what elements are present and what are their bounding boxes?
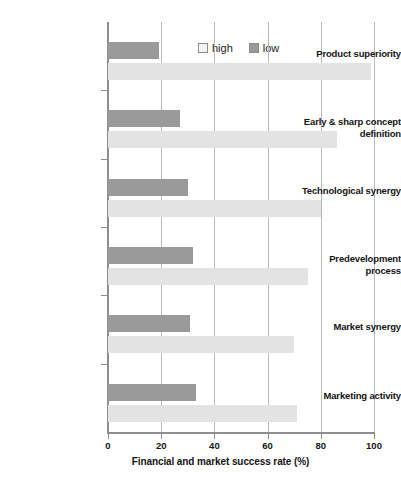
x-axis-line <box>107 432 375 434</box>
bar-low <box>108 247 193 264</box>
y-axis-tick <box>101 227 108 228</box>
bar-low <box>108 42 159 59</box>
bar-low <box>108 110 180 127</box>
bar-high <box>108 405 297 422</box>
bar-low <box>108 179 188 196</box>
category-label: Predevelopment process <box>301 253 401 276</box>
x-axis-tick-label: 80 <box>301 440 341 451</box>
category-label: Marketing activity <box>301 390 401 402</box>
bar-low <box>108 315 190 332</box>
category-label: Technological synergy <box>301 185 401 197</box>
gridline-80 <box>321 22 322 432</box>
gridline-100 <box>374 22 375 432</box>
gridline-20 <box>161 22 162 432</box>
category-label: Product superiority <box>301 48 401 60</box>
x-axis-tick-label: 0 <box>88 440 128 451</box>
category-label: Early & sharp concept definition <box>301 116 401 139</box>
x-axis-tick <box>161 434 162 439</box>
plot-area <box>108 22 374 432</box>
x-axis-tick-label: 100 <box>354 440 394 451</box>
x-axis-tick-label: 60 <box>248 440 288 451</box>
x-axis-tick <box>108 434 109 439</box>
bar-high <box>108 336 294 353</box>
bar-high <box>108 268 308 285</box>
x-axis-tick <box>374 434 375 439</box>
x-axis-title: Financial and market success rate (%) <box>0 456 401 467</box>
gridline-60 <box>268 22 269 432</box>
y-axis-tick <box>101 90 108 91</box>
bar-high <box>108 200 321 217</box>
x-axis-tick <box>268 434 269 439</box>
x-axis-tick-label: 40 <box>194 440 234 451</box>
y-axis-tick <box>101 159 108 160</box>
category-label: Market synergy <box>301 321 401 333</box>
bar-high <box>108 63 371 80</box>
x-axis-tick-label: 20 <box>141 440 181 451</box>
x-axis-tick <box>214 434 215 439</box>
bar-low <box>108 384 196 401</box>
y-axis-tick <box>101 364 108 365</box>
gridline-40 <box>214 22 215 432</box>
horizontal-bar-chart: high low Product superiorityEarly & shar… <box>0 0 401 489</box>
x-axis-tick <box>321 434 322 439</box>
y-axis-tick <box>101 295 108 296</box>
